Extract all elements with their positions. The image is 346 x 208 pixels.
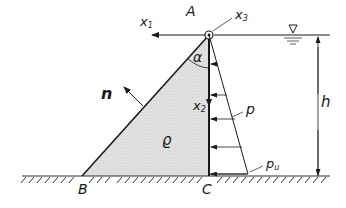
point-A-label: A [186,4,196,18]
pressure-arrows [211,64,247,174]
angle-alpha-label: α [193,50,202,64]
normal-n-label: n [101,86,112,102]
pressure-p-label: p [246,102,255,116]
pressure-pu-label: pu [266,157,279,172]
height-h-label: h [321,95,331,110]
dam-diagram: A B C x1 x3 x2 α n ϱ p pu h [0,0,346,208]
x2-label: x2 [193,99,206,114]
p-leader [232,112,243,117]
x1-label: x1 [140,15,153,30]
normal-vector-arrow [124,87,143,106]
point-B-label: B [78,182,88,196]
diagram-graphics [0,0,346,208]
pu-leader [250,166,263,172]
pressure-line [209,35,248,174]
point-C-label: C [202,182,212,196]
x3-label: x3 [235,8,248,23]
ground-hatching [21,176,330,183]
x3-leader [213,18,232,31]
density-rho-label: ϱ [162,133,172,148]
